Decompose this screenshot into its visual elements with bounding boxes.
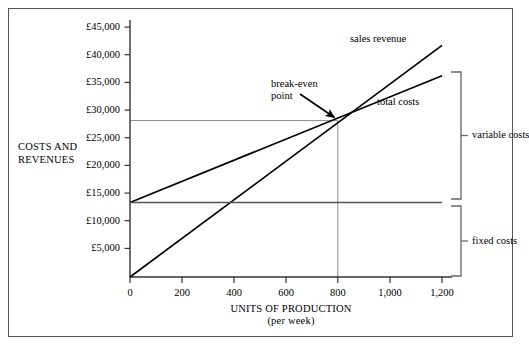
x-tick-label-1200: 1,200 (422, 287, 462, 299)
break-even-label-line1: break-even (271, 78, 318, 90)
y-axis-title-line1: COSTS AND (18, 141, 118, 154)
y-tick-label-15000: £15,000 (52, 187, 120, 199)
bracket-label-fixed-costs-text: fixed costs (472, 235, 517, 246)
x-tick-label-200: 200 (162, 287, 202, 299)
x-tick-label-600: 600 (266, 287, 306, 299)
y-tick-label-10000: £10,000 (52, 215, 120, 227)
bracket-label-variable-costs-text: variable costs (472, 129, 529, 140)
x-axis-title: UNITS OF PRODUCTION (196, 303, 386, 315)
y-axis-title-line2: REVENUES (18, 154, 118, 167)
x-tick-label-0: 0 (110, 287, 150, 299)
x-tick-label-400: 400 (214, 287, 254, 299)
y-tick-label-5000: £5,000 (52, 242, 120, 254)
x-tick-label-1000: 1,000 (370, 287, 410, 299)
bracket-label-variable-costs: variable costs (472, 129, 520, 141)
y-axis-ticks (125, 27, 131, 248)
y-tick-label-40000: £40,000 (52, 49, 120, 61)
x-tick-label-800: 800 (318, 287, 358, 299)
x-axis-subtitle: (per week) (196, 315, 386, 327)
series-label-total-costs: total costs (377, 96, 419, 108)
break-even-arrow (300, 94, 335, 118)
fixed-costs-bracket (451, 206, 468, 276)
break-even-label-line2: point (271, 90, 293, 102)
y-tick-label-35000: £35,000 (52, 76, 120, 88)
series-label-sales-revenue: sales revenue (350, 33, 406, 45)
bracket-label-fixed-costs: fixed costs (472, 235, 520, 247)
x-axis-ticks (130, 277, 442, 283)
y-tick-label-45000: £45,000 (52, 21, 120, 33)
variable-costs-bracket (451, 72, 468, 199)
y-tick-label-30000: £30,000 (52, 104, 120, 116)
